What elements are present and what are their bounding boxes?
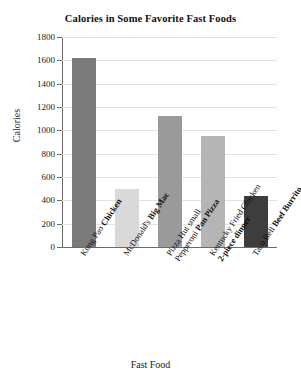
y-axis-tick-label: 1800	[9, 32, 55, 42]
y-axis-tick-label: 1600	[9, 55, 55, 65]
y-axis-tick-label: 200	[9, 219, 55, 229]
y-axis-title: Calories	[11, 66, 22, 186]
bar	[72, 58, 96, 247]
chart-title: Calories in Some Favorite Fast Foods	[0, 13, 301, 24]
y-axis-tick	[57, 84, 62, 85]
y-axis-tick	[57, 130, 62, 131]
x-axis-title: Fast Food	[0, 359, 301, 370]
y-axis-tick	[57, 37, 62, 38]
y-axis-tick	[57, 247, 62, 248]
y-axis-tick	[57, 224, 62, 225]
y-axis-tick-label: 400	[9, 195, 55, 205]
y-axis-tick	[57, 200, 62, 201]
bar	[158, 116, 182, 247]
y-axis-tick	[57, 177, 62, 178]
gridline	[62, 37, 277, 38]
y-axis-tick	[57, 154, 62, 155]
bar-chart: Calories in Some Favorite Fast Foods 180…	[0, 0, 301, 378]
y-axis-tick	[57, 60, 62, 61]
y-axis-tick	[57, 107, 62, 108]
y-axis-tick-label: 0	[9, 242, 55, 252]
